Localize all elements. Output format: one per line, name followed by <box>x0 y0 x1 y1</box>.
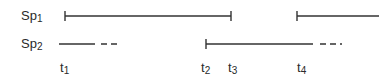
timeline-diagram <box>0 0 387 80</box>
time-label-t4: t4 <box>297 61 306 75</box>
time-label-t1: t1 <box>60 61 69 75</box>
t-sub: 1 <box>64 65 70 76</box>
t-sub: 4 <box>301 65 307 76</box>
t-sub: 3 <box>232 65 238 76</box>
time-label-t3: t3 <box>228 61 237 75</box>
time-label-t2: t2 <box>201 61 210 75</box>
t-sub: 2 <box>205 65 211 76</box>
